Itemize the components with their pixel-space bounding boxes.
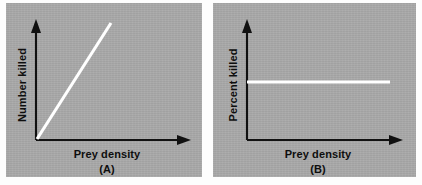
panel-b-y-axis-arrowhead <box>242 19 252 33</box>
panel-b-y-axis-label: Percent killed <box>227 49 239 122</box>
panel-b-plot: Percent killed Prey density (B) <box>213 3 416 177</box>
figure-container: Number killed Prey density (A) Percent k… <box>0 0 422 185</box>
panel-a-caption: (A) <box>99 163 115 175</box>
panel-a-data-line <box>37 23 111 139</box>
panel-a-y-axis-label: Number killed <box>16 48 28 122</box>
panel-b-x-axis-arrowhead <box>389 135 403 145</box>
panel-b: Percent killed Prey density (B) <box>213 3 416 177</box>
panel-a-y-axis-arrowhead <box>31 19 41 33</box>
panel-b-x-axis-label: Prey density <box>285 148 352 160</box>
panel-a-x-axis-label: Prey density <box>74 148 141 160</box>
panel-a-x-axis-arrowhead <box>177 135 191 145</box>
panel-a-plot: Number killed Prey density (A) <box>6 3 202 177</box>
panel-a: Number killed Prey density (A) <box>6 3 202 177</box>
panel-b-caption: (B) <box>310 163 326 175</box>
